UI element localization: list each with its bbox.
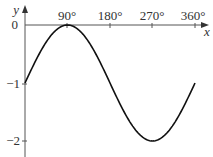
y-tick-label: −2 bbox=[6, 133, 20, 148]
x-tick-label: 90° bbox=[58, 8, 76, 23]
x-tick-label: 180° bbox=[98, 8, 123, 23]
sine-chart: 90° 180° 270° 360° 0 −1 −2 y x bbox=[0, 0, 213, 157]
y-tick-label: −1 bbox=[6, 76, 20, 91]
x-axis-title: x bbox=[203, 24, 210, 39]
x-tick-label: 360° bbox=[181, 8, 206, 23]
x-tick-label: 270° bbox=[140, 8, 165, 23]
y-axis-arrow-icon bbox=[22, 5, 28, 13]
sine-curve bbox=[25, 25, 195, 141]
y-tick-label: 0 bbox=[12, 17, 19, 32]
y-axis-title: y bbox=[11, 2, 19, 17]
